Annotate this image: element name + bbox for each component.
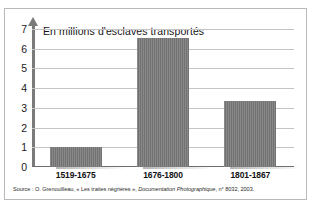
chart-figure: En millions d'esclaves transportés 76543… — [4, 8, 307, 200]
y-axis-tick-labels: 76543210 — [5, 29, 27, 167]
y-tick-label-7: 7 — [7, 24, 27, 35]
source-caption: Source : O. Grenouilleau, « Les traites … — [13, 186, 300, 192]
x-axis-tick-labels: 1519-16751676-18001801-1867 — [32, 170, 294, 184]
y-tick-label-0: 0 — [7, 162, 27, 173]
x-tick-label-1519-1675: 1519-1675 — [31, 170, 121, 180]
bar-1676-1800 — [137, 38, 189, 167]
x-tick-label-1801-1867: 1801-1867 — [205, 170, 295, 180]
y-tick-label-4: 4 — [7, 83, 27, 94]
bar-1519-1675 — [50, 147, 102, 167]
y-tick-label-1: 1 — [7, 142, 27, 153]
source-publication: Documentation Photographique — [138, 186, 215, 192]
bar-1801-1867 — [224, 101, 276, 167]
y-tick-label-6: 6 — [7, 44, 27, 55]
source-prefix: Source : O. Grenouilleau, « Les traites … — [13, 186, 138, 192]
gridline-7 — [32, 29, 294, 30]
y-tick-label-3: 3 — [7, 103, 27, 114]
y-tick-label-5: 5 — [7, 63, 27, 74]
source-suffix: , n° 8032, 2003. — [215, 186, 254, 192]
y-tick-label-2: 2 — [7, 123, 27, 134]
plot-area — [32, 29, 294, 167]
x-tick-label-1676-1800: 1676-1800 — [118, 170, 208, 180]
